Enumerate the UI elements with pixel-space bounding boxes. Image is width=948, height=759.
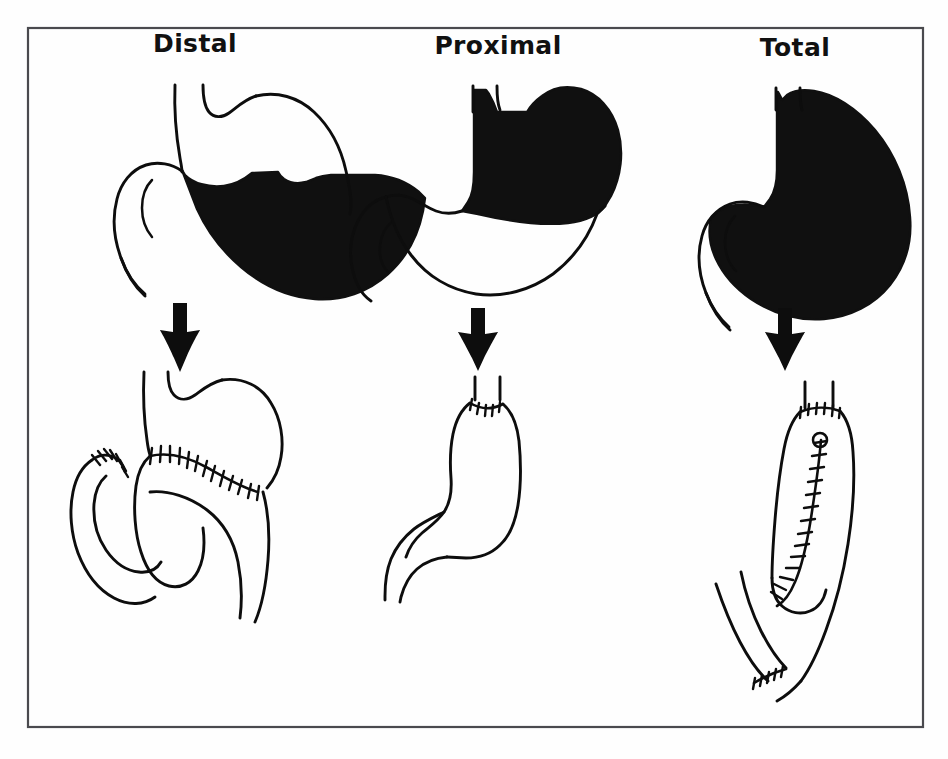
- roux-limb-longitudinal-suture: [777, 440, 821, 606]
- efferent-limb-total: [777, 681, 801, 701]
- efferent-limb-inner-distal: [150, 492, 241, 618]
- distal-arrow: [160, 303, 200, 372]
- stomach-resection-figure: Distal Proximal Total: [0, 0, 948, 759]
- duodenum-inner-fold-distal: [142, 180, 152, 237]
- esophagus-recon-distal: [144, 372, 150, 455]
- total-shaded-region: [710, 90, 911, 319]
- esophagus-outline-distal: [175, 85, 182, 172]
- gastric-remnant-right-wall-proximal: [447, 404, 520, 558]
- roux-limb-blind-end-total: [772, 578, 826, 613]
- distal-shaded-region: [182, 170, 425, 299]
- roux-limb-left-wall-total: [772, 412, 800, 578]
- duodenum-lower-distal: [121, 258, 145, 294]
- roux-limb-right-wall-total: [801, 411, 854, 681]
- duodenum-outer-recon-proximal: [385, 512, 444, 600]
- efferent-limb-distal: [255, 492, 269, 622]
- distal-resection-diagram: [114, 85, 425, 299]
- distal-reconstruction-diagram: [71, 372, 282, 622]
- duodenal-stump-suture-ticks: [92, 449, 128, 477]
- duodenal-stump-inner-distal: [94, 476, 161, 572]
- proximal-reconstruction-diagram: [385, 377, 520, 602]
- panel-label-distal: Distal: [153, 29, 237, 58]
- duodenum-lower-total: [706, 293, 729, 327]
- figure-root: Distal Proximal Total: [0, 0, 948, 759]
- esophagus-right-proximal: [497, 86, 500, 110]
- gastric-remnant-left-wall-proximal: [406, 403, 470, 557]
- cropped-caption: [12, 745, 432, 759]
- cardiac-notch-distal: [203, 85, 256, 117]
- total-resection-diagram: [699, 88, 910, 330]
- duodenum-inner-recon-proximal: [400, 557, 447, 602]
- duodenal-stump-distal: [71, 460, 155, 604]
- cardiac-notch-recon-distal: [168, 372, 222, 399]
- gastric-remnant-curve-distal: [222, 379, 282, 488]
- panel-label-proximal: Proximal: [434, 31, 561, 60]
- proximal-shaded-region: [462, 87, 621, 224]
- total-reconstruction-diagram: [716, 382, 854, 701]
- proximal-arrow: [458, 308, 498, 371]
- panel-label-total: Total: [760, 33, 830, 62]
- afferent-limb-outer-distal: [135, 456, 204, 587]
